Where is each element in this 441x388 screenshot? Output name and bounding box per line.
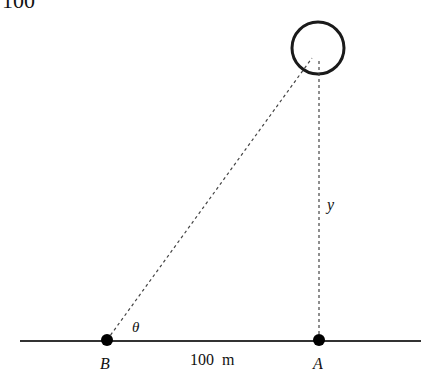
- point-b: [101, 334, 113, 346]
- label-angle-theta: θ: [132, 319, 140, 335]
- label-b: B: [100, 355, 110, 372]
- line-of-sight-dashed: [107, 58, 312, 340]
- clipped-top-label: 100: [2, 0, 35, 13]
- point-a: [313, 334, 325, 346]
- diagram-canvas: 100 B A 100 m y θ: [0, 0, 441, 388]
- label-a: A: [312, 355, 323, 372]
- balloon-circle: [292, 22, 344, 74]
- label-distance: 100 m: [190, 351, 235, 368]
- label-height-y: y: [325, 196, 335, 214]
